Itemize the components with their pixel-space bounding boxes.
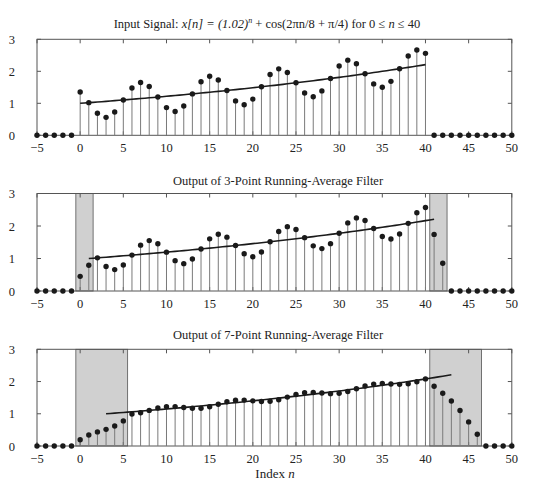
y-tick-label: 2 [9, 375, 15, 389]
y-tick-label: 0 [9, 285, 15, 299]
data-point [129, 252, 134, 257]
y-tick-label: 1 [9, 252, 15, 266]
data-point [371, 381, 376, 386]
data-point [86, 432, 91, 437]
data-point [224, 234, 229, 239]
data-point [362, 383, 367, 388]
data-point [181, 103, 186, 108]
data-point [302, 90, 307, 95]
data-point [328, 76, 333, 81]
x-tick-label: 15 [203, 297, 216, 311]
panel-input-signal: Input Signal: x[n] = (1.02)n + cos(2πn/8… [9, 16, 518, 155]
data-point [336, 231, 341, 236]
data-point [198, 405, 203, 410]
data-point [224, 399, 229, 404]
data-point [431, 133, 436, 138]
data-point [380, 381, 385, 386]
data-point [241, 251, 246, 256]
data-point [181, 261, 186, 266]
data-point [431, 384, 436, 389]
panel-title-input: Input Signal: x[n] = (1.02)n + cos(2πn/8… [114, 16, 421, 31]
x-tick-label: 40 [419, 141, 432, 155]
data-point [43, 288, 48, 293]
x-tick-label: 30 [333, 297, 346, 311]
y-tick-label: 3 [9, 343, 15, 357]
data-point [34, 288, 39, 293]
data-point [423, 205, 428, 210]
y-tick-label: 2 [9, 220, 15, 234]
data-point [440, 133, 445, 138]
data-point [492, 443, 497, 448]
data-point [354, 386, 359, 391]
data-point [250, 254, 255, 259]
data-point [43, 443, 48, 448]
data-point [371, 226, 376, 231]
data-point [172, 404, 177, 409]
data-point [345, 389, 350, 394]
data-point [198, 79, 203, 84]
data-point [138, 80, 143, 85]
data-point [52, 133, 57, 138]
data-point [60, 133, 65, 138]
data-point [388, 236, 393, 241]
data-point [500, 288, 505, 293]
data-point [414, 210, 419, 215]
data-point [250, 398, 255, 403]
data-point [354, 215, 359, 220]
data-point [95, 111, 100, 116]
data-point [172, 109, 177, 114]
shaded-transient-region [430, 194, 447, 292]
data-point [293, 227, 298, 232]
data-point [77, 437, 82, 442]
data-point [388, 79, 393, 84]
data-point [336, 391, 341, 396]
data-point [95, 255, 100, 260]
data-point [276, 397, 281, 402]
data-point [285, 224, 290, 229]
x-tick-label: 15 [203, 141, 216, 155]
data-point [34, 443, 39, 448]
data-point [406, 221, 411, 226]
x-tick-label: 5 [120, 297, 126, 311]
data-point [449, 398, 454, 403]
data-point [103, 115, 108, 120]
data-point [250, 96, 255, 101]
data-point [509, 133, 514, 138]
data-point [345, 57, 350, 62]
data-point [77, 89, 82, 94]
y-tick-label: 0 [9, 440, 15, 454]
x-tick-label: 30 [333, 452, 346, 466]
data-point [121, 97, 126, 102]
x-tick-label: −5 [30, 297, 43, 311]
data-point [267, 72, 272, 77]
data-point [293, 80, 298, 85]
data-point [190, 91, 195, 96]
data-point [147, 238, 152, 243]
data-point [440, 261, 445, 266]
data-point [112, 109, 117, 114]
x-axis-label: Index n [255, 466, 294, 481]
x-tick-label: 25 [290, 141, 303, 155]
data-point [69, 443, 74, 448]
data-point [60, 288, 65, 293]
data-point [52, 443, 57, 448]
data-point [276, 229, 281, 234]
data-point [103, 427, 108, 432]
data-point [483, 133, 488, 138]
data-point [475, 133, 480, 138]
data-point [406, 53, 411, 58]
data-point [406, 381, 411, 386]
data-point [259, 84, 264, 89]
data-point [216, 77, 221, 82]
data-point [190, 406, 195, 411]
x-tick-label: 45 [462, 141, 475, 155]
data-point [414, 47, 419, 52]
data-point [319, 390, 324, 395]
data-point [328, 391, 333, 396]
data-point [112, 267, 117, 272]
y-tick-label: 0 [9, 129, 15, 143]
data-point [112, 423, 117, 428]
data-point [224, 88, 229, 93]
x-tick-label: 20 [247, 141, 260, 155]
data-point [241, 102, 246, 107]
